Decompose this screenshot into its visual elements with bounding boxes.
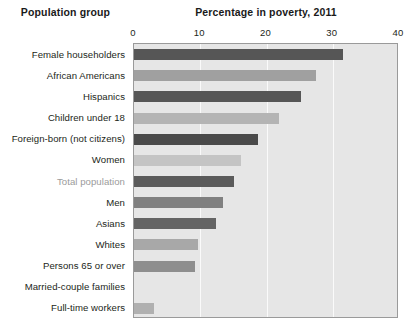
bar [134,113,279,124]
bar-row [134,239,397,250]
x-axis: 010203040 [133,27,398,43]
bar-row [134,303,397,314]
category-label: African Americans [47,69,125,80]
category-label: Children under 18 [48,112,125,123]
bar [134,197,223,208]
bar-row [134,218,397,229]
category-label: Female householders [32,48,125,59]
bar [134,239,198,250]
category-label: Foreign-born (not citizens) [12,133,125,144]
bar [134,70,316,81]
bar [134,91,301,102]
chart-title: Percentage in poverty, 2011 [131,6,401,18]
bar-row [134,70,397,81]
category-label: Women [92,154,125,165]
category-label: Hispanics [83,90,125,101]
x-tick-20: 20 [260,27,271,38]
x-tick-30: 30 [326,27,337,38]
bar-row [134,197,397,208]
bar-row [134,134,397,145]
bar-series [134,44,397,317]
bar [134,303,154,314]
x-tick-40: 40 [392,27,403,38]
bar [134,218,216,229]
category-label: Full-time workers [51,302,125,313]
bar-row [134,261,397,272]
category-labels: Female householdersAfrican AmericansHisp… [0,43,129,318]
bar [134,134,258,145]
category-label: Total population [57,175,125,186]
plot-area [133,43,398,318]
x-tick-0: 0 [130,27,136,38]
category-label: Men [106,196,125,207]
bar-row [134,91,397,102]
x-tick-10: 10 [194,27,205,38]
bar-row [134,49,397,60]
bar-row [134,282,397,293]
bar [134,49,343,60]
bar [134,155,241,166]
bar [134,261,195,272]
poverty-bar-chart: Population group Percentage in poverty, … [0,0,408,335]
bar-row [134,176,397,187]
population-group-heading: Population group [0,6,131,18]
category-label: Married-couple families [25,281,125,292]
bar-row [134,113,397,124]
bar [134,176,234,187]
category-label: Whites [95,238,125,249]
category-label: Asians [96,217,125,228]
category-label: Persons 65 or over [43,260,125,271]
bar-row [134,155,397,166]
